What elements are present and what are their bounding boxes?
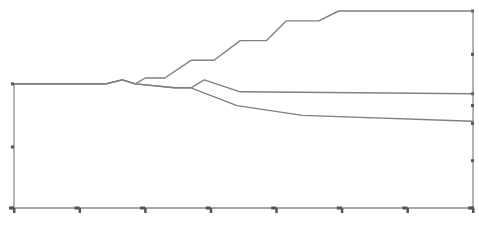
- y-tick-left: [11, 82, 14, 85]
- y-tick-right: [471, 104, 474, 107]
- series-line-lower-branch: [14, 80, 473, 121]
- y-tick-right: [471, 159, 474, 162]
- series-line-middle-branch: [14, 80, 473, 94]
- x-tick-mark: [406, 208, 409, 213]
- x-tick-mark: [144, 208, 147, 213]
- x-tick-mark: [275, 208, 278, 213]
- series-line-upper-branch: [14, 11, 473, 84]
- y-tick-right: [471, 122, 474, 125]
- y-tick-right: [471, 53, 474, 56]
- y-tick-left: [11, 145, 14, 148]
- line-chart: [0, 0, 479, 230]
- y-tick-left: [11, 207, 14, 210]
- x-tick-mark: [79, 208, 82, 213]
- x-tick-mark: [341, 208, 344, 213]
- y-tick-right: [471, 207, 474, 210]
- series-lines: [14, 11, 473, 121]
- x-tick-mark: [210, 208, 213, 213]
